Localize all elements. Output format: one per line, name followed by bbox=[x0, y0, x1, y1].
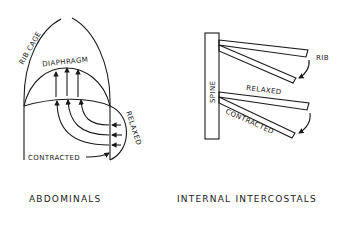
spine-label: SPINE bbox=[209, 81, 217, 103]
rib-label: RIB bbox=[316, 54, 329, 62]
intercostals-caption: INTERNAL INTERCOSTALS bbox=[177, 194, 317, 204]
abdominal-wall-relaxed bbox=[110, 106, 127, 160]
pressure-arrow-curve bbox=[57, 101, 109, 145]
contracted-leader bbox=[86, 153, 109, 157]
rib-cage-label: RIB CAGE bbox=[18, 30, 43, 66]
relaxed-label: RELAXED bbox=[246, 84, 282, 96]
diaphragm-label: DIAPHRAGM bbox=[42, 56, 89, 69]
diaphragm-flat-contracted bbox=[24, 99, 110, 106]
relaxed-label: RELAXED bbox=[124, 110, 143, 146]
rib-rotation-arrow bbox=[299, 113, 310, 133]
rib-lower-relaxed bbox=[219, 92, 309, 110]
abdominals-caption: ABDOMINALS bbox=[29, 194, 101, 204]
respiratory-muscles-diagram: RIB CAGE DIAPHRAGM RELAXED CONTRACTED AB… bbox=[0, 0, 352, 227]
rib-rotation-arrow bbox=[299, 60, 309, 78]
rib-upper-relaxed bbox=[219, 40, 308, 57]
abdominals-diagram: RIB CAGE DIAPHRAGM RELAXED CONTRACTED AB… bbox=[18, 18, 143, 204]
intercostals-diagram: SPINE RIB RELAXED CONTRACTED INTERNAL IN… bbox=[177, 33, 329, 204]
contracted-label: CONTRACTED bbox=[28, 154, 80, 162]
pressure-arrow-curve bbox=[68, 100, 109, 135]
